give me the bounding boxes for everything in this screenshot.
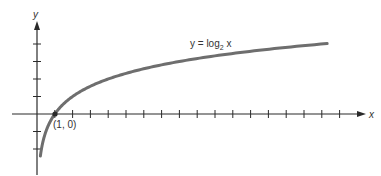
y-axis-label: y — [32, 9, 39, 20]
y-axis-arrow-icon — [34, 21, 40, 30]
x-axis-arrow-icon — [357, 111, 366, 117]
log-graph-figure: y x (1, 0) y = log2 x — [0, 0, 381, 176]
log2-curve — [40, 44, 327, 156]
x-axis-label: x — [368, 109, 375, 120]
point-label: (1, 0) — [53, 119, 76, 130]
graph-svg: y x (1, 0) y = log2 x — [0, 0, 381, 176]
curve-label: y = log2 x — [190, 38, 231, 51]
point-1-0-marker — [52, 111, 57, 116]
